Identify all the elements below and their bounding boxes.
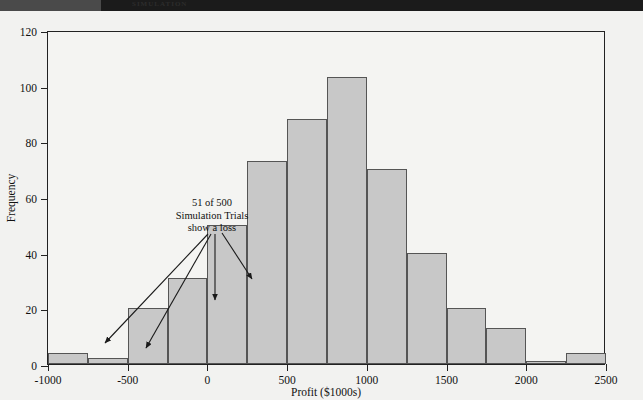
y-tick-label: 60: [26, 193, 38, 205]
x-tick-mark: [207, 364, 208, 371]
y-tick-label: 0: [31, 360, 37, 372]
header-left-block: [0, 0, 101, 11]
y-tick-label: 40: [26, 249, 38, 261]
y-tick-mark: [41, 310, 48, 311]
histogram-bar: [447, 308, 487, 364]
x-tick-label: 500: [279, 374, 296, 386]
histogram-bar: [367, 169, 407, 364]
y-tick-mark: [41, 366, 48, 367]
histogram-bar: [566, 353, 606, 364]
annotation-line-2: Simulation Trials: [176, 210, 249, 223]
y-tick-mark: [41, 255, 48, 256]
x-axis-title: Profit ($1000s): [291, 386, 361, 398]
y-axis-title: Frequency: [5, 174, 17, 223]
y-tick-label: 100: [20, 82, 37, 94]
y-tick-mark: [41, 32, 48, 33]
histogram-bar: [287, 119, 327, 364]
y-tick-mark: [41, 88, 48, 89]
y-tick-label: 80: [26, 137, 38, 149]
x-tick-label: -1000: [35, 374, 62, 386]
x-tick-label: 1000: [355, 374, 378, 386]
x-tick-mark: [287, 364, 288, 371]
histogram-bar: [407, 253, 447, 364]
x-tick-mark: [606, 364, 607, 371]
annotation-line-3: show a loss: [176, 222, 249, 235]
histogram-bar: [247, 161, 287, 364]
histogram-bar: [128, 308, 168, 364]
x-tick-label: 1500: [435, 374, 458, 386]
y-tick-label: 120: [20, 26, 37, 38]
y-tick-mark: [41, 143, 48, 144]
histogram-bar: [486, 328, 526, 364]
x-tick-mark: [367, 364, 368, 371]
y-tick-mark: [41, 199, 48, 200]
annotation-label: 51 of 500 Simulation Trials show a loss: [176, 197, 249, 235]
bar-series: [48, 32, 604, 364]
plot-area: 020406080100120 -1000-500050010001500200…: [47, 31, 605, 365]
x-tick-mark: [526, 364, 527, 371]
x-tick-mark: [447, 364, 448, 371]
histogram-figure: 020406080100120 -1000-500050010001500200…: [0, 11, 643, 400]
x-tick-label: 0: [205, 374, 211, 386]
histogram-bar: [48, 353, 88, 364]
page-header-strip: SIMULATION: [0, 0, 643, 11]
histogram-bar: [168, 278, 208, 364]
x-tick-label: 2500: [595, 374, 618, 386]
header-title-text: SIMULATION: [132, 0, 187, 8]
x-tick-mark: [48, 364, 49, 371]
x-tick-label: 2000: [515, 374, 538, 386]
histogram-bar: [526, 361, 566, 364]
x-tick-label: -500: [117, 374, 138, 386]
histogram-bar: [88, 358, 128, 364]
x-tick-mark: [128, 364, 129, 371]
y-tick-label: 20: [26, 304, 38, 316]
histogram-bar: [327, 77, 367, 364]
histogram-bar: [207, 225, 247, 364]
annotation-line-1: 51 of 500: [176, 197, 249, 210]
